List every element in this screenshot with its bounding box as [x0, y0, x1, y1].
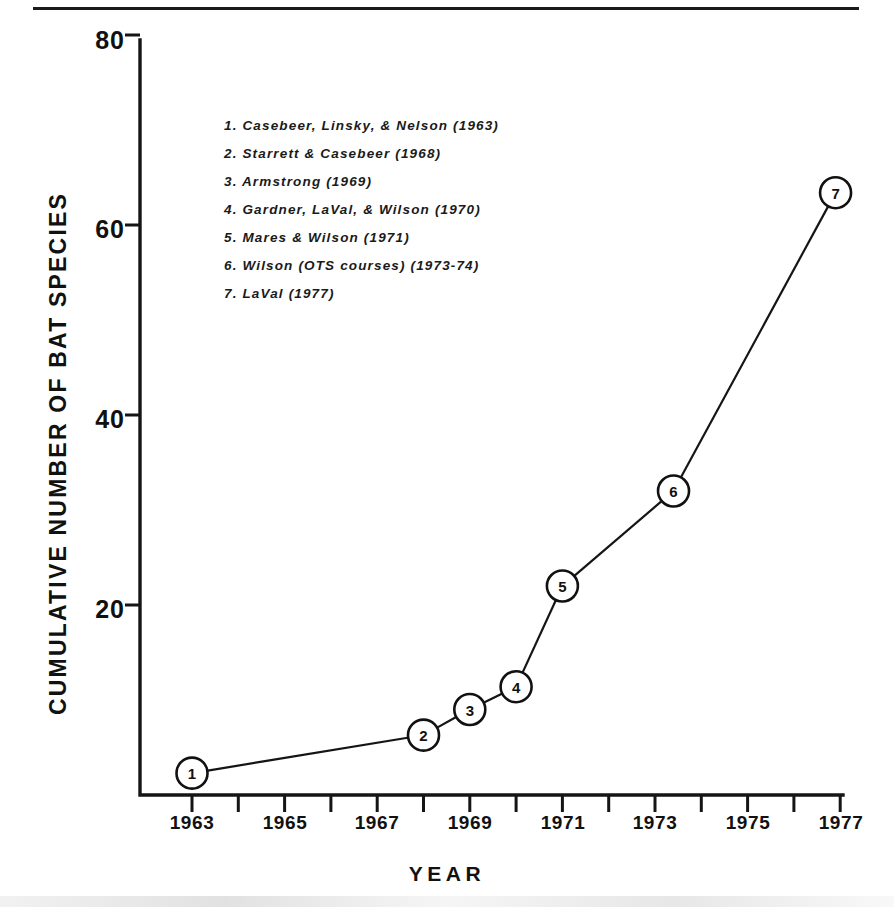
- data-point-3: 3: [454, 694, 485, 725]
- series-segment-5-6: [572, 499, 663, 577]
- data-point-2: 2: [408, 720, 439, 751]
- data-point-markers: 1234567: [177, 177, 852, 788]
- marker-label-4: 4: [512, 679, 521, 696]
- data-point-7: 7: [820, 177, 851, 208]
- marker-label-2: 2: [419, 727, 427, 744]
- data-point-4: 4: [501, 671, 532, 702]
- axes-lines: [140, 40, 843, 795]
- marker-label-1: 1: [188, 765, 196, 782]
- x-axis-title: YEAR: [0, 862, 894, 886]
- marker-label-5: 5: [558, 578, 566, 595]
- series-segment-4-5: [522, 598, 557, 675]
- axis-l-shape: [140, 40, 843, 795]
- series-segment-1-2: [205, 737, 411, 771]
- marker-label-6: 6: [669, 483, 677, 500]
- page-scan-smudge: [0, 896, 894, 907]
- marker-label-7: 7: [831, 185, 839, 202]
- series-segment-2-3: [435, 716, 459, 729]
- y-axis-ticks: [125, 35, 140, 605]
- data-point-5: 5: [547, 571, 578, 602]
- marker-label-3: 3: [466, 702, 474, 719]
- x-axis-ticks: [192, 795, 840, 812]
- data-point-1: 1: [177, 758, 208, 789]
- plot-area: 1234567: [0, 0, 894, 907]
- data-point-6: 6: [658, 476, 689, 507]
- figure-chart-bat-species: CUMULATIVE NUMBER OF BAT SPECIES 80 60 4…: [0, 0, 894, 907]
- series-segment-3-4: [481, 692, 504, 703]
- series-segment-6-7: [680, 204, 830, 479]
